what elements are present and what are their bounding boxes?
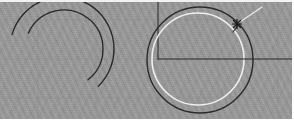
arc-outer[interactable] [12, 2, 114, 86]
drawing-canvas[interactable] [0, 2, 294, 119]
leader-line[interactable] [237, 7, 262, 24]
cad-window [0, 0, 294, 132]
circle-assembly-right[interactable] [147, 2, 294, 113]
vector-layer [0, 2, 294, 119]
canvas-bottom-margin [0, 119, 294, 132]
canvas-right-margin [292, 0, 294, 132]
snap-point-marker[interactable] [233, 20, 242, 29]
arc-pair-left[interactable] [12, 2, 114, 86]
